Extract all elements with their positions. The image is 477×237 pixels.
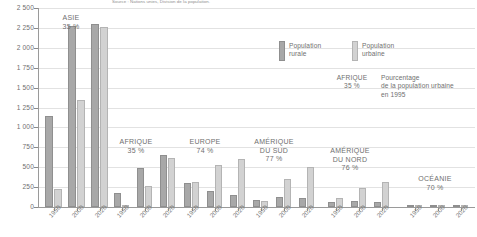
group-label: AMÉRIQUEDU SUD77 % bbox=[242, 138, 306, 164]
bar-rurale bbox=[45, 116, 53, 207]
legend-swatch-urbaine bbox=[352, 41, 358, 61]
bar-rurale bbox=[328, 202, 335, 207]
legend-urbaine-line2: urbaine bbox=[362, 50, 385, 57]
legend-note-line1: Pourcentage bbox=[381, 74, 420, 81]
legend-note-line3: en 1995 bbox=[381, 91, 406, 98]
legend-rurale-line2: rurale bbox=[289, 50, 306, 57]
group-region-name-line1: AMÉRIQUE bbox=[254, 138, 293, 145]
group-urban-percentage: 35 % bbox=[104, 147, 168, 156]
legend-note-key: AFRIQUE 35 % bbox=[329, 74, 375, 91]
legend-note-pct: 35 % bbox=[344, 82, 360, 89]
bar-urbaine bbox=[284, 179, 291, 207]
group-region-name-line1: AMÉRIQUE bbox=[330, 147, 369, 154]
bar-rurale bbox=[91, 24, 99, 207]
bar-rurale bbox=[137, 168, 144, 207]
bar-urbaine bbox=[100, 27, 108, 207]
group-urban-percentage: 77 % bbox=[242, 155, 306, 164]
group-urban-percentage: 70 % bbox=[405, 184, 465, 193]
bar-rurale bbox=[351, 201, 358, 207]
y-axis-tick-label: 0 bbox=[0, 203, 34, 210]
y-axis-tick-label: 250 bbox=[0, 183, 34, 190]
bar-rurale bbox=[207, 191, 214, 207]
y-axis-tick-label: 1 500 bbox=[0, 84, 34, 91]
y-axis-tick-label: 1 000 bbox=[0, 123, 34, 130]
group-region-name-line2: DU NORD bbox=[333, 156, 367, 163]
group-region-name: OCÉANIE bbox=[418, 175, 451, 182]
group-label: ASIE35 % bbox=[41, 14, 101, 31]
y-axis-tick-label: 2 250 bbox=[0, 24, 34, 31]
legend-note-line2: de la population urbaine bbox=[381, 82, 454, 89]
group-label: AMÉRIQUEDU NORD76 % bbox=[317, 147, 383, 173]
group-region-name-line2: DU SUD bbox=[260, 147, 288, 154]
bar-rurale bbox=[374, 202, 381, 207]
group-label: EUROPE74 % bbox=[175, 138, 235, 155]
legend-label-urbaine: Population urbaine bbox=[362, 42, 394, 58]
group-region-name: EUROPE bbox=[189, 138, 220, 145]
y-axis-tick-label: 2 500 bbox=[0, 4, 34, 11]
bar-rurale bbox=[230, 195, 237, 207]
group-urban-percentage: 74 % bbox=[175, 147, 235, 156]
bar-rurale bbox=[68, 26, 76, 207]
bar-urbaine bbox=[238, 159, 245, 207]
group-label: AFRIQUE35 % bbox=[104, 138, 168, 155]
legend-label-rurale: Population rurale bbox=[289, 42, 321, 58]
group-region-name: ASIE bbox=[63, 14, 80, 21]
legend-urbaine-line1: Population bbox=[362, 42, 394, 49]
y-axis-tick-label: 750 bbox=[0, 143, 34, 150]
legend-swatch-rurale bbox=[279, 41, 285, 61]
y-axis-tick-label: 500 bbox=[0, 163, 34, 170]
bar-urbaine bbox=[307, 167, 314, 207]
y-axis-tick-label: 1 250 bbox=[0, 104, 34, 111]
bar-rurale bbox=[160, 155, 167, 207]
bar-rurale bbox=[276, 197, 283, 207]
group-urban-percentage: 76 % bbox=[317, 164, 383, 173]
source-note: Source : Nations unies, Division de la p… bbox=[112, 0, 210, 4]
y-axis-line bbox=[38, 8, 39, 207]
group-urban-percentage: 35 % bbox=[41, 23, 101, 32]
bar-urbaine bbox=[168, 158, 175, 207]
population-urban-rural-chart: Source : Nations unies, Division de la p… bbox=[0, 0, 477, 237]
gridline bbox=[38, 8, 475, 9]
y-axis-tick-label: 2 000 bbox=[0, 44, 34, 51]
y-axis-tick-label: 1 750 bbox=[0, 64, 34, 71]
bar-urbaine bbox=[77, 100, 85, 207]
legend-note-region: AFRIQUE bbox=[337, 74, 368, 81]
legend-rurale-line1: Population bbox=[289, 42, 321, 49]
bar-urbaine bbox=[215, 165, 222, 207]
bar-rurale bbox=[114, 193, 121, 207]
bar-rurale bbox=[299, 198, 306, 207]
legend-note-description: Pourcentage de la population urbaine en … bbox=[381, 74, 454, 99]
bar-rurale bbox=[253, 200, 260, 207]
group-label: OCÉANIE70 % bbox=[405, 175, 465, 192]
bar-rurale bbox=[184, 183, 191, 207]
group-region-name: AFRIQUE bbox=[120, 138, 153, 145]
